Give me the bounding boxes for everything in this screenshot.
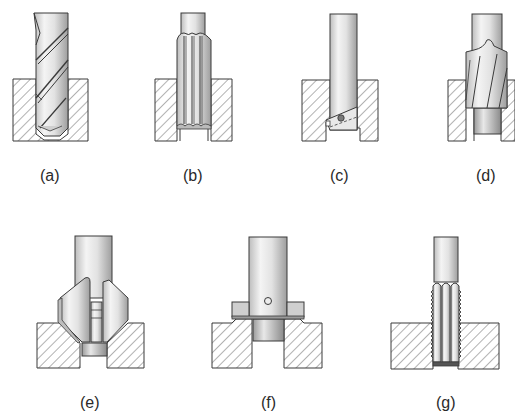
panel-d-counterboring: (d): [448, 14, 515, 184]
counterbore-icon: [466, 14, 507, 134]
panel-label-a: (a): [40, 167, 60, 184]
twist-drill-icon: [34, 13, 68, 136]
panel-g-tapping: (g): [391, 237, 499, 411]
panel-label-b: (b): [183, 167, 203, 184]
panel-c-boring: (c): [302, 14, 378, 184]
panel-a-drilling: (a): [13, 13, 88, 184]
panel-b-reaming: (b): [155, 13, 232, 184]
boring-bar-icon: [326, 14, 357, 130]
panel-label-c: (c): [330, 167, 349, 184]
panel-f-spotfacing: (f): [212, 237, 322, 411]
panel-label-f: (f): [261, 394, 276, 411]
tap-icon: [431, 237, 461, 366]
panel-label-e: (e): [80, 394, 100, 411]
panel-label-d: (d): [476, 167, 496, 184]
machining-operations-figure: (a) (b) (c): [0, 0, 515, 414]
reamer-icon: [177, 13, 211, 129]
panel-e-countersinking: (e): [37, 236, 144, 411]
panel-label-g: (g): [436, 394, 456, 411]
